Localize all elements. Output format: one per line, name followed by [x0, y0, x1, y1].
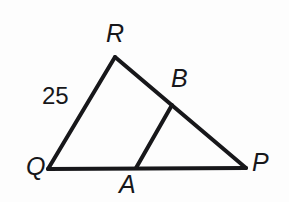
segment-AB: [136, 105, 172, 168]
vertex-label-q: Q: [26, 154, 45, 179]
vertex-label-r: R: [106, 21, 124, 46]
segment-QP: [48, 168, 246, 169]
side-length-qr: 25: [42, 84, 69, 108]
segment-QR: [48, 57, 115, 169]
vertex-label-p: P: [252, 150, 269, 175]
point-label-b: B: [171, 66, 188, 91]
point-label-a: A: [119, 172, 136, 197]
geometry-figure: Q R P A B 25: [0, 0, 289, 202]
